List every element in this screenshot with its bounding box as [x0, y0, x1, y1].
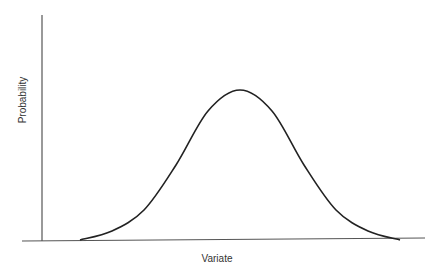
distribution-curve [80, 90, 400, 240]
y-axis-label: Probability [17, 77, 28, 124]
bell-curve-chart [0, 0, 437, 280]
x-axis-label: Variate [202, 253, 233, 264]
